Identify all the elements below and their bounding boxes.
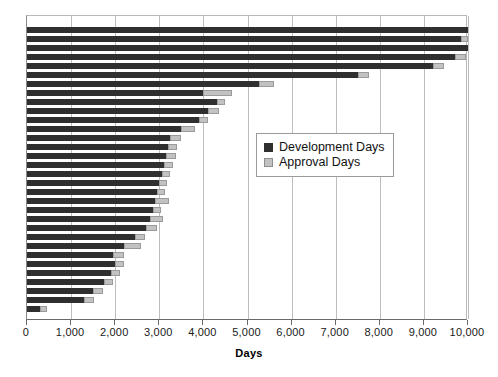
bar-row [27, 99, 225, 105]
bar-segment-development-days [27, 261, 115, 267]
bar-segment-approval-days [111, 270, 121, 276]
x-axis-title: Days [0, 347, 498, 359]
gridline [468, 16, 469, 319]
approval-days-swatch-icon [264, 158, 273, 167]
bar-segment-development-days [27, 198, 155, 204]
bar-segment-approval-days [104, 279, 113, 285]
bar-segment-development-days [27, 54, 455, 60]
bar-segment-development-days [27, 189, 157, 195]
bar-row [27, 144, 177, 150]
stacked-bar-chart: 01,0002,0003,0004,0005,0006,0007,0008,00… [0, 0, 498, 377]
x-tick-label: 0 [23, 326, 29, 338]
bar-segment-development-days [27, 90, 203, 96]
bar-row [27, 171, 170, 177]
bar-segment-approval-days [124, 243, 141, 249]
axis-tick [114, 320, 115, 325]
x-tick-label: 2,000 [100, 326, 129, 338]
bar-row [27, 279, 113, 285]
bar-segment-development-days [27, 243, 124, 249]
bar-segment-approval-days [155, 198, 170, 204]
bar-segment-development-days [27, 63, 433, 69]
bar-row [27, 288, 103, 294]
x-tick-label: 1,000 [56, 326, 85, 338]
bar-segment-approval-days [199, 117, 208, 123]
bar-row [27, 225, 157, 231]
bar-segment-development-days [27, 279, 104, 285]
bar-segment-development-days [27, 252, 113, 258]
bar-row [27, 90, 232, 96]
bar-segment-development-days [27, 27, 468, 33]
bar-row [27, 117, 208, 123]
bar-row [27, 108, 219, 114]
bar-row [27, 54, 466, 60]
bar-segment-approval-days [455, 54, 466, 60]
bar-segment-approval-days [166, 153, 176, 159]
bar-segment-approval-days [113, 252, 124, 258]
bar-row [27, 207, 161, 213]
bar-segment-development-days [27, 144, 168, 150]
bar-segment-approval-days [164, 162, 174, 168]
x-tick-label: 5,000 [232, 326, 261, 338]
axis-tick [423, 320, 424, 325]
bar-row [27, 153, 176, 159]
x-tick-label: 4,000 [188, 326, 217, 338]
bar-segment-approval-days [153, 207, 162, 213]
bar-row [27, 162, 173, 168]
axis-tick [70, 320, 71, 325]
x-tick-label: 6,000 [276, 326, 305, 338]
bar-segment-development-days [27, 81, 259, 87]
bar-segment-approval-days [168, 144, 177, 150]
bar-segment-approval-days [433, 63, 444, 69]
axis-tick [26, 320, 27, 325]
plot-area [26, 15, 467, 320]
axis-tick [202, 320, 203, 325]
bar-row [27, 270, 120, 276]
x-tick-label: 7,000 [320, 326, 349, 338]
bar-row [27, 63, 444, 69]
bar-row [27, 198, 169, 204]
bar-segment-approval-days [208, 108, 219, 114]
bar-segment-development-days [27, 99, 217, 105]
chart-legend: Development Days Approval Days [256, 133, 394, 177]
bar-segment-development-days [27, 225, 146, 231]
bar-segment-development-days [27, 297, 84, 303]
bar-segment-development-days [27, 153, 166, 159]
bar-segment-development-days [27, 207, 153, 213]
bar-segment-development-days [27, 216, 150, 222]
legend-item-development-days: Development Days [264, 140, 385, 154]
legend-item-approval-days: Approval Days [264, 155, 385, 169]
bar-segment-approval-days [181, 126, 194, 132]
x-tick-label: 8,000 [365, 326, 394, 338]
bar-row [27, 180, 167, 186]
x-axis-tick-labels: 01,0002,0003,0004,0005,0006,0007,0008,00… [0, 326, 498, 344]
bar-segment-approval-days [157, 189, 165, 195]
x-tick-label: 9,000 [409, 326, 438, 338]
bar-row [27, 81, 274, 87]
bar-segment-approval-days [93, 288, 103, 294]
bar-row [27, 27, 468, 33]
bars-layer [27, 16, 466, 319]
bar-segment-development-days [27, 45, 468, 51]
axis-tick [467, 320, 468, 325]
bar-segment-development-days [27, 234, 135, 240]
bar-segment-approval-days [358, 72, 369, 78]
bar-row [27, 45, 468, 51]
axis-tick [158, 320, 159, 325]
bar-row [27, 216, 163, 222]
bar-segment-approval-days [170, 135, 181, 141]
legend-label-development-days: Development Days [279, 140, 385, 154]
axis-tick [335, 320, 336, 325]
x-tick-label: 10,000 [450, 326, 485, 338]
bar-row [27, 135, 181, 141]
bar-segment-approval-days [115, 261, 124, 267]
bar-segment-development-days [27, 270, 111, 276]
bar-row [27, 306, 47, 312]
bar-segment-development-days [27, 162, 164, 168]
bar-row [27, 261, 124, 267]
bar-segment-development-days [27, 117, 199, 123]
bar-row [27, 126, 195, 132]
axis-tick [291, 320, 292, 325]
bar-segment-approval-days [150, 216, 162, 222]
legend-label-approval-days: Approval Days [279, 155, 360, 169]
bar-row [27, 234, 145, 240]
